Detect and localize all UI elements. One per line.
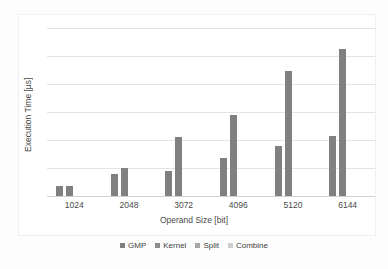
legend-label: Kernel bbox=[163, 241, 186, 250]
bar bbox=[285, 71, 292, 196]
legend-item: GMP bbox=[120, 241, 146, 250]
bar bbox=[66, 186, 73, 196]
legend-label: GMP bbox=[128, 241, 146, 250]
gridline bbox=[47, 28, 375, 29]
bar bbox=[175, 137, 182, 196]
bar bbox=[121, 168, 128, 196]
x-axis-tick-label: 6144 bbox=[321, 200, 375, 210]
legend-item: Split bbox=[195, 241, 219, 250]
plot-area: 0123456 bbox=[47, 28, 375, 196]
legend-label: Combine bbox=[236, 241, 268, 250]
gridline bbox=[47, 112, 375, 113]
legend-swatch-icon bbox=[195, 243, 200, 248]
bar bbox=[220, 158, 227, 196]
gridline bbox=[47, 56, 375, 57]
legend-item: Kernel bbox=[155, 241, 186, 250]
bar-chart: Execution Time [µs] 0123456 102420483072… bbox=[0, 0, 388, 269]
y-axis-title: Execution Time [µs] bbox=[21, 50, 35, 180]
x-axis-tick-label: 5120 bbox=[266, 200, 320, 210]
x-axis-title: Operand Size [bit] bbox=[0, 215, 388, 225]
bar bbox=[230, 115, 237, 196]
legend-label: Split bbox=[203, 241, 219, 250]
bar bbox=[56, 186, 63, 196]
legend-item: Combine bbox=[228, 241, 268, 250]
legend-swatch-icon bbox=[155, 243, 160, 248]
legend-swatch-icon bbox=[228, 243, 233, 248]
x-axis-tick-label: 2048 bbox=[102, 200, 156, 210]
bar bbox=[275, 146, 282, 196]
gridline bbox=[47, 84, 375, 85]
gridline bbox=[47, 140, 375, 141]
bar bbox=[329, 136, 336, 196]
gridline bbox=[47, 196, 375, 197]
bar bbox=[339, 49, 346, 196]
x-axis-tick-label: 3072 bbox=[157, 200, 211, 210]
chart-legend: GMPKernelSplitCombine bbox=[0, 241, 388, 250]
x-axis-tick-label: 1024 bbox=[47, 200, 101, 210]
bar bbox=[111, 174, 118, 196]
bar bbox=[165, 171, 172, 196]
gridline bbox=[47, 168, 375, 169]
x-axis-tick-label: 4096 bbox=[211, 200, 265, 210]
legend-swatch-icon bbox=[120, 243, 125, 248]
